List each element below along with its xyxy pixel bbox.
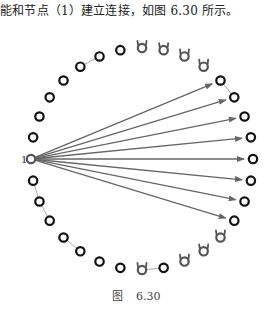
caption-prefix: 图 bbox=[112, 290, 123, 303]
ring-node bbox=[35, 197, 43, 205]
connection-arrow bbox=[36, 84, 213, 157]
source-node-label: 1 bbox=[21, 154, 27, 165]
ring-node bbox=[247, 176, 255, 184]
ring-node bbox=[59, 76, 67, 84]
ring-node bbox=[29, 176, 37, 184]
ring-node bbox=[116, 264, 124, 272]
ring-node bbox=[95, 257, 103, 265]
connection-arrow bbox=[36, 160, 236, 200]
ring-node bbox=[35, 112, 43, 120]
connection-arrow bbox=[36, 118, 236, 158]
connection-arrows bbox=[36, 84, 244, 218]
ring-node bbox=[230, 93, 238, 101]
ring-node bbox=[76, 247, 84, 255]
ring-node bbox=[249, 155, 257, 163]
ring-node bbox=[59, 233, 67, 241]
horned-node bbox=[138, 263, 147, 274]
ring-node bbox=[95, 52, 103, 60]
horned-node bbox=[216, 230, 225, 241]
horned-node bbox=[180, 49, 189, 60]
source-node bbox=[27, 155, 35, 163]
ring-node bbox=[247, 133, 255, 141]
horned-node bbox=[180, 255, 189, 266]
ring-node bbox=[216, 76, 224, 84]
ring-node bbox=[240, 197, 248, 205]
horned-node bbox=[138, 41, 147, 52]
ring-network-diagram: 1 bbox=[0, 0, 272, 314]
ring-node bbox=[230, 216, 238, 224]
horned-node bbox=[199, 244, 208, 255]
caption-number: 6.30 bbox=[136, 290, 161, 303]
ring-node bbox=[116, 46, 124, 54]
ring-node bbox=[159, 264, 167, 272]
horned-node bbox=[199, 60, 208, 71]
ring-node bbox=[240, 112, 248, 120]
ring-node bbox=[29, 133, 37, 141]
ring-nodes bbox=[27, 41, 257, 274]
ring-node bbox=[46, 216, 54, 224]
figure-caption: 图 6.30 bbox=[0, 287, 272, 303]
ring-node bbox=[46, 93, 54, 101]
horned-node bbox=[159, 43, 168, 54]
ring-node bbox=[76, 63, 84, 71]
